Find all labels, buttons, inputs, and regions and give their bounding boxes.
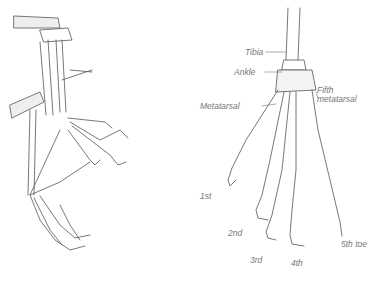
foot-skeleton-illustration [0,0,390,281]
label-tibia: Tibia [245,48,263,57]
label-ankle: Ankle [234,68,255,77]
left-foot-skeleton [10,16,128,250]
label-toe-2nd: 2nd [228,229,242,238]
label-toe-4th: 4th [291,259,303,268]
label-toe-1st: 1st [200,192,211,201]
label-toe-5th: 5th toe [341,240,367,249]
right-foot-skeleton [228,8,342,246]
label-metatarsal: Metatarsal [200,102,240,111]
label-toe-3rd: 3rd [250,256,262,265]
label-fifth-metatarsal-line2: metatarsal [317,95,357,104]
